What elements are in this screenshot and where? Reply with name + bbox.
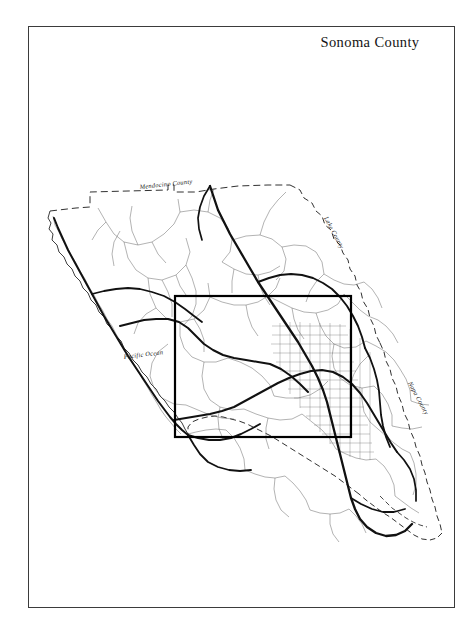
- minor-road: [332, 344, 374, 388]
- coastline-inner-shade: [53, 216, 181, 434]
- minor-road: [310, 509, 349, 514]
- minor-road: [188, 429, 226, 434]
- minor-road: [148, 278, 210, 322]
- minor-road: [364, 282, 382, 308]
- highway-sr-128: [258, 274, 365, 348]
- minor-road: [285, 476, 310, 510]
- label-lake-county: Lake County: [323, 214, 346, 249]
- minor-road: [130, 206, 138, 245]
- highway-us-101: [210, 186, 412, 536]
- major-highway-network: [54, 186, 416, 536]
- label-pacific-ocean: Pacific Ocean: [122, 348, 163, 360]
- minor-road: [112, 231, 120, 266]
- minor-road: [176, 275, 186, 295]
- minor-road: [152, 242, 166, 263]
- minor-road: [180, 210, 232, 262]
- minor-road: [232, 269, 234, 293]
- minor-road: [274, 478, 289, 517]
- highway-east-spur: [397, 452, 416, 501]
- highway-sr-121: [365, 348, 390, 447]
- minor-road: [92, 222, 106, 240]
- minor-road: [378, 429, 410, 453]
- minor-road: [260, 192, 286, 235]
- boundary-east-dashed: [380, 343, 442, 533]
- highway-northwest-connector: [92, 288, 202, 322]
- page-canvas: Sonoma County: [0, 0, 474, 644]
- highway-sr-37: [351, 498, 405, 512]
- sonoma-county-map-svg: Mendocino County Pacific Ocean Lake Coun…: [28, 26, 455, 608]
- map-figure: Mendocino County Pacific Ocean Lake Coun…: [28, 26, 455, 608]
- minor-road: [245, 470, 285, 478]
- minor-road: [392, 426, 422, 429]
- minor-road: [202, 362, 244, 410]
- minor-road: [330, 514, 339, 542]
- minor-road: [282, 245, 324, 274]
- boundary-north-dashed: [50, 185, 290, 211]
- highway-north-branch: [198, 186, 210, 240]
- minor-road: [232, 235, 286, 280]
- minor-road: [98, 199, 180, 245]
- minor-road: [350, 356, 368, 385]
- boundary-northeast-dashed: [290, 185, 380, 343]
- minor-road: [344, 294, 378, 320]
- minor-road-network: [92, 189, 429, 542]
- minor-road: [378, 320, 398, 343]
- minor-road: [246, 305, 258, 336]
- minor-road: [366, 341, 400, 369]
- county-boundary-group: [48, 185, 442, 540]
- minor-road: [316, 313, 366, 348]
- minor-road: [324, 274, 364, 285]
- label-napa-county: Napa County: [407, 379, 431, 416]
- minor-road: [376, 459, 395, 496]
- minor-road: [244, 409, 302, 420]
- label-mendocino-county: Mendocino County: [138, 178, 192, 191]
